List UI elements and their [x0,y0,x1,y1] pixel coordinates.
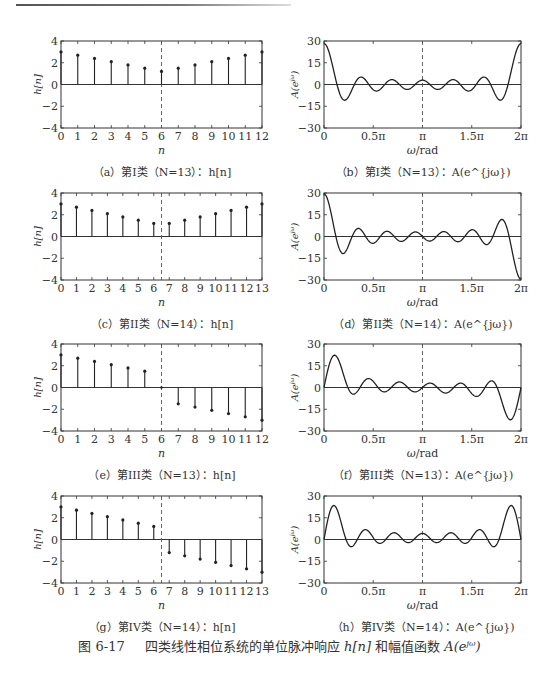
x-tick-label: 0 [58,282,65,295]
stem-marker [168,222,171,225]
figure-title-text2: 和幅值函数 [375,639,440,654]
stem-marker [59,505,62,508]
caption-d: （d）第II类（N=14）：A(e^{jω}) [324,315,522,331]
x-tick-label: 4 [125,130,132,143]
x-tick-label: π [419,282,426,295]
stem-marker [227,57,230,60]
x-tick-label: 4 [125,433,132,446]
x-tick-label: π [419,585,426,598]
y-tick-label: 0 [314,382,321,395]
subplot-e: 0123456789101112−4−2024nh[n] [32,338,269,460]
stem-marker [260,50,263,53]
x-tick-label: 6 [150,585,157,598]
stem-marker [90,209,93,212]
x-tick-label: 1.5π [459,282,484,295]
figure-title-hn: h[n] [344,639,371,654]
y-tick-label: −2 [42,555,58,568]
y-axis-label: A(ejω) [288,526,300,555]
stem-marker [229,209,232,212]
x-tick-label: 9 [208,433,215,446]
x-axis-label: ω/rad [407,296,439,309]
y-tick-label: 30 [307,187,321,200]
y-tick-label: −2 [42,100,58,113]
x-tick-label: 5 [141,433,148,446]
y-tick-label: −15 [298,252,321,265]
x-tick-label: 8 [181,282,188,295]
x-tick-label: 2π [514,282,528,295]
x-tick-label: 7 [166,282,173,295]
subplot-g: 012345678910111213−4−2024nh[n] [32,490,269,612]
y-tick-label: −4 [42,274,58,287]
y-tick-label: 4 [51,35,58,48]
stem-marker [193,63,196,66]
stem-marker [210,409,213,412]
stem-marker [244,415,247,418]
x-tick-label: 2π [514,433,528,446]
stem-marker [126,366,129,369]
y-tick-label: 0 [314,534,321,547]
x-tick-label: 1 [74,433,81,446]
stem-marker [121,518,124,521]
caption-a: （a）第I类（N=13）：h[n] [61,163,263,179]
x-tick-label: π [419,130,426,143]
y-tick-label: 30 [307,35,321,48]
caption-b: （b）第I类（N=13）：A(e^{jω}) [324,163,522,179]
stem-marker [245,206,248,209]
x-tick-label: 0.5π [361,433,386,446]
x-tick-label: 0 [321,585,328,598]
x-tick-label: 7 [175,433,182,446]
figure-caption: 图 6-17 四类线性相位系统的单位脉冲响应 h[n] 和幅值函数 A(ejω) [0,636,559,655]
stem-marker [214,212,217,215]
stem-marker [59,50,62,53]
y-tick-label: −30 [298,577,321,590]
caption-f: （f）第III类（N=13）：A(e^{jω}) [324,466,522,482]
x-tick-label: 3 [108,130,115,143]
y-tick-label: −30 [298,274,321,287]
x-tick-label: 13 [255,282,269,295]
subplot-a: 0123456789101112−4−2024nh[n] [32,35,269,157]
stem-marker [59,202,62,205]
x-axis-label: n [158,447,165,460]
x-tick-label: 8 [192,433,199,446]
caption-c: （c）第II类（N=14）：h[n] [61,315,263,331]
stem-marker [229,564,232,567]
stem-marker [152,222,155,225]
stem-marker [59,353,62,356]
x-tick-label: 12 [240,282,254,295]
x-tick-label: 10 [222,433,236,446]
stem-marker [177,67,180,70]
x-tick-label: 1 [74,130,81,143]
stem-marker [76,357,79,360]
x-tick-label: 9 [197,585,204,598]
y-axis-label: h[n] [32,74,43,95]
x-tick-label: 1.5π [459,433,484,446]
stem-marker [177,402,180,405]
stem-marker [126,63,129,66]
stem-marker [183,554,186,557]
y-tick-label: −4 [42,425,58,438]
x-tick-label: 0 [58,585,65,598]
y-tick-label: 15 [307,360,321,373]
stem-marker [168,551,171,554]
y-tick-label: 15 [307,57,321,70]
stem-marker [137,219,140,222]
y-tick-label: −2 [42,252,58,265]
x-tick-label: 2π [514,130,528,143]
stem-marker [214,561,217,564]
y-tick-label: 0 [51,79,58,92]
y-tick-label: 15 [307,512,321,525]
y-tick-label: −2 [42,403,58,416]
subplot-b: 00.5ππ1.5π2π−30−1501530ω/radA(ejω) [288,35,528,157]
x-tick-label: 0.5π [361,282,386,295]
caption-e: （e）第III类（N=13）：h[n] [61,466,263,482]
stem-marker [193,405,196,408]
x-tick-label: 9 [197,282,204,295]
x-tick-label: 0.5π [361,585,386,598]
x-tick-label: 1 [73,585,80,598]
y-axis-label: A(ejω) [288,223,300,252]
x-tick-label: 0 [321,282,328,295]
y-tick-label: 2 [51,57,58,70]
y-tick-label: −15 [298,555,321,568]
y-tick-label: 2 [51,360,58,373]
stem-marker [137,522,140,525]
